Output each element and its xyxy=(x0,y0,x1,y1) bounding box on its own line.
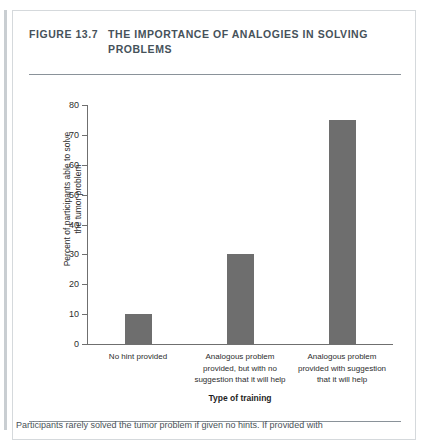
title-divider xyxy=(29,74,401,75)
plot-area: 80706050403020100 xyxy=(87,105,393,345)
bar xyxy=(329,120,356,344)
y-tick-label: 40 xyxy=(69,220,79,230)
y-tick-label: 10 xyxy=(69,309,79,319)
figure-title: THE IMPORTANCE OF ANALOGIES IN SOLVING P… xyxy=(108,27,401,57)
y-tick-label: 0 xyxy=(74,339,79,349)
bar-cell xyxy=(291,105,393,344)
y-tick-label: 20 xyxy=(69,279,79,289)
y-tick-label: 30 xyxy=(69,249,79,259)
page-margin-rule xyxy=(4,10,7,430)
x-axis-label: Type of training xyxy=(87,393,393,403)
bar-cell xyxy=(87,105,189,344)
y-tick-label: 70 xyxy=(69,130,79,140)
bar-chart: Percent of participants able to solve th… xyxy=(29,83,401,413)
bar-cell xyxy=(189,105,291,344)
figure-number: FIGURE 13.7 xyxy=(29,27,98,42)
bar xyxy=(227,254,254,344)
y-tick-label: 60 xyxy=(69,160,79,170)
figure-container: FIGURE 13.7 THE IMPORTANCE OF ANALOGIES … xyxy=(12,10,416,440)
y-tick-mark xyxy=(82,344,87,345)
y-tick-label: 50 xyxy=(69,190,79,200)
x-tick-label: Analogous problem provided, but with no … xyxy=(189,351,291,386)
bar xyxy=(125,314,152,344)
figure-title-block: FIGURE 13.7 THE IMPORTANCE OF ANALOGIES … xyxy=(29,27,401,57)
x-axis-tick-labels: No hint providedAnalogous problem provid… xyxy=(87,351,393,386)
x-tick-label: Analogous problem provided with suggesti… xyxy=(291,351,393,386)
y-tick-label: 80 xyxy=(69,100,79,110)
figure-caption: Participants rarely solved the tumor pro… xyxy=(16,419,406,433)
x-axis-line xyxy=(87,344,393,345)
bar-series xyxy=(87,105,393,344)
x-tick-label: No hint provided xyxy=(87,351,189,386)
